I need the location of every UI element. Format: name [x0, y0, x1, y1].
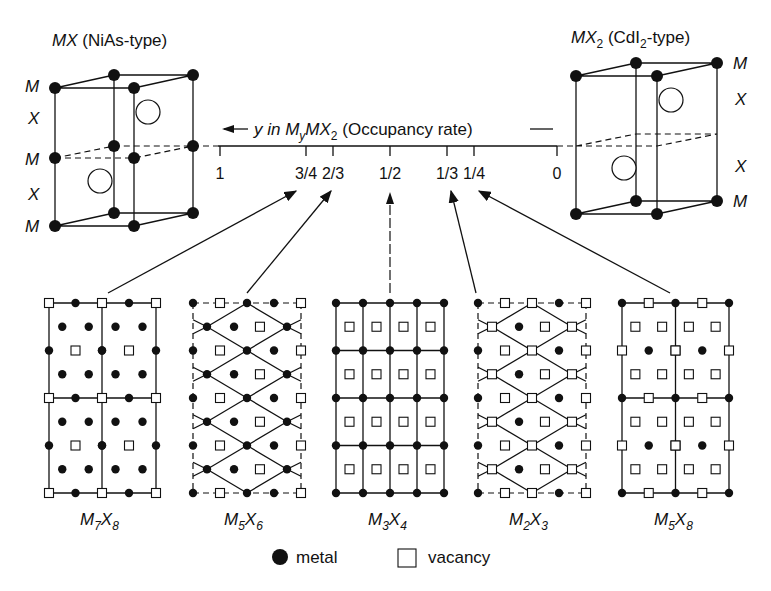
- layer-label: X: [734, 90, 747, 109]
- legend: metal vacancy: [272, 548, 491, 567]
- occupancy-axis: y in MyMX2 (Occupancy rate) 13/42/31/21/…: [193, 120, 576, 182]
- axis-tick-label: 1/4: [463, 165, 485, 182]
- arrow-left-icon: [222, 125, 234, 133]
- anion-atom: [136, 100, 160, 124]
- phase-label-m5x8: M5X8: [654, 510, 693, 533]
- axis-label: y in MyMX2 (Occupancy rate): [253, 120, 473, 143]
- diagram-canvas: MX (NiAs-type) M X M X M MX2 (CdI2-type: [0, 0, 771, 591]
- phase-label-m5x6: M5X6: [224, 510, 263, 533]
- vacancy-legend-icon: [398, 549, 416, 567]
- panel-m5x6: [189, 299, 306, 498]
- metal-atoms: [570, 57, 723, 220]
- axis-tick-label: 2/3: [322, 165, 344, 182]
- panel-m2x3: [474, 299, 591, 498]
- phase-label-m7x8: M7X8: [80, 510, 119, 533]
- axis-tick-label: 1: [216, 165, 225, 182]
- layer-label: M: [733, 54, 748, 73]
- legend-vacancy-label: vacancy: [428, 548, 491, 567]
- panel-m3x4: [332, 299, 448, 497]
- layer-label: M: [25, 217, 40, 236]
- axis-ticks: 13/42/31/21/31/40: [216, 146, 562, 182]
- phase-label-m3x4: M3X4: [368, 510, 407, 533]
- layer-label: X: [734, 157, 747, 176]
- layer-label: M: [25, 150, 40, 169]
- axis-tick-label: 1/3: [436, 165, 458, 182]
- legend-metal-label: metal: [296, 548, 338, 567]
- phase-arrows: [108, 191, 670, 293]
- layer-label: X: [27, 185, 40, 204]
- cdi2-title: MX2 (CdI2-type): [571, 28, 690, 51]
- anion-atom: [612, 156, 636, 180]
- panel-m5x8: [618, 299, 734, 498]
- metal-atoms: [49, 69, 199, 232]
- anion-atom: [659, 88, 683, 112]
- axis-tick-label: 3/4: [295, 165, 317, 182]
- axis-tick-label: 0: [553, 165, 562, 182]
- phase-labels: M7X8 M5X6 M3X4 M2X3 M5X8: [80, 510, 693, 533]
- nias-title: MX (NiAs-type): [52, 31, 167, 50]
- superstructure-panels: [45, 299, 734, 498]
- layer-label: M: [25, 77, 40, 96]
- axis-tick-label: 1/2: [379, 165, 401, 182]
- layer-label: X: [27, 109, 40, 128]
- nias-structure: MX (NiAs-type) M X M X M: [25, 31, 199, 236]
- panel-m7x8: [45, 299, 161, 498]
- metal-legend-icon: [272, 549, 288, 565]
- layer-label: M: [733, 192, 748, 211]
- phase-label-m2x3: M2X3: [509, 510, 548, 533]
- anion-atom: [88, 169, 112, 193]
- cdi2-structure: MX2 (CdI2-type) M X X M: [570, 28, 748, 220]
